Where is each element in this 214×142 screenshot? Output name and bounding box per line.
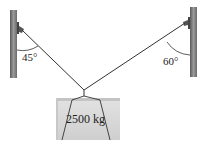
- right-pole: [183, 7, 197, 77]
- mass-label: 2500 kg: [66, 112, 105, 127]
- hanging-mass-diagram: [0, 0, 214, 142]
- left-angle-arc: [17, 46, 38, 51]
- right-angle-label: 60°: [163, 55, 178, 67]
- left-pole: [10, 10, 24, 78]
- left-angle-label: 45°: [22, 51, 37, 63]
- right-angle-arc: [167, 42, 190, 55]
- ropes: [22, 23, 185, 96]
